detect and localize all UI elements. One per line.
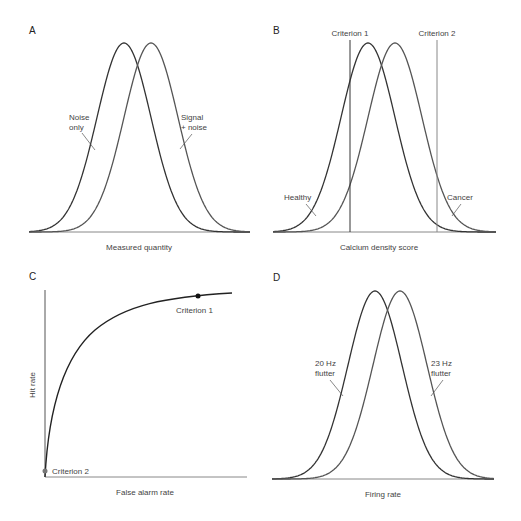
- panel-c: C Criterion 1 Criterion 2 False alarm ra…: [28, 271, 247, 497]
- noise-label-line2: only: [69, 123, 84, 132]
- criterion-1-label: Criterion 1: [332, 29, 369, 38]
- y-axis-label: Hit rate: [28, 372, 37, 398]
- healthy-curve: [273, 43, 496, 232]
- x-axis-label: False alarm rate: [116, 488, 174, 497]
- signal-leader-line: [180, 134, 192, 149]
- noise-only-curve: [29, 43, 250, 232]
- panel-letter-b: B: [273, 25, 280, 36]
- 20hz-leader-line: [330, 380, 343, 396]
- panel-letter-c: C: [29, 271, 36, 282]
- cancer-leader-line: [452, 204, 461, 216]
- 23hz-label-line2: flutter: [431, 369, 451, 378]
- cancer-curve: [273, 43, 496, 232]
- 23hz-flutter-curve: [272, 291, 494, 479]
- panel-d: D 20 Hz flutter 23 Hz flutter Firing rat…: [272, 272, 494, 499]
- signal-label-line2: + noise: [181, 123, 208, 132]
- criterion-1-label: Criterion 1: [176, 306, 213, 315]
- healthy-label: Healthy: [284, 193, 311, 202]
- criterion-2-point: [43, 469, 48, 474]
- x-axis-label: Calcium density score: [340, 243, 419, 252]
- criterion-2-label: Criterion 2: [52, 467, 89, 476]
- panel-letter-a: A: [29, 25, 36, 36]
- noise-label-line1: Noise: [69, 113, 90, 122]
- 23hz-label-line1: 23 Hz: [431, 359, 452, 368]
- roc-curve: [45, 293, 232, 477]
- cancer-label: Cancer: [447, 193, 473, 202]
- panel-a: A Noise only Signal + noise Measured qua…: [29, 25, 250, 252]
- 20hz-label-line1: 20 Hz: [315, 359, 336, 368]
- 20hz-flutter-curve: [272, 291, 494, 479]
- criterion-2-label: Criterion 2: [419, 29, 456, 38]
- x-axis-label: Measured quantity: [106, 243, 172, 252]
- figure-canvas: A Noise only Signal + noise Measured qua…: [0, 0, 521, 521]
- x-axis-label: Firing rate: [365, 490, 402, 499]
- panel-letter-d: D: [273, 272, 280, 283]
- 20hz-label-line2: flutter: [315, 369, 335, 378]
- signal-label-line1: Signal: [181, 113, 203, 122]
- criterion-1-point: [196, 294, 201, 299]
- panel-b: B Criterion 1 Criterion 2 Healthy Cancer…: [273, 25, 496, 252]
